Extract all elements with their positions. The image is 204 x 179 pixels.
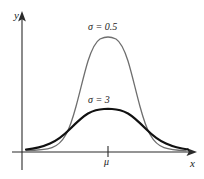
y-axis-label: y <box>14 10 19 21</box>
mu-tick-label: μ <box>104 157 109 167</box>
curve-label-sigma-narrow: σ = 0.5 <box>88 22 117 32</box>
curve-label-sigma-wide: σ = 3 <box>88 95 110 105</box>
normal-distribution-figure: y x μ σ = 0.5 σ = 3 <box>0 0 204 179</box>
x-axis-label: x <box>190 158 195 169</box>
curve-sigma-wide <box>26 109 188 150</box>
